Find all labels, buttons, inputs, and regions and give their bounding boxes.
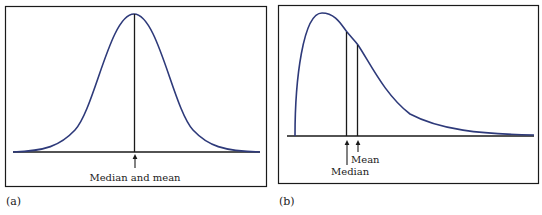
distribution-figure: Median and mean (a) Mean Median (b) [0,0,542,215]
panel-b-mean-arrow-icon [356,140,361,152]
panel-a-median-mean-label: Median and mean [89,172,181,183]
panel-a-caption: (a) [6,195,21,208]
panel-b-median-label: Median [331,166,370,177]
panel-b-frame [279,6,539,184]
panel-b-caption: (b) [279,195,295,208]
panel-b: Mean Median (b) [279,6,539,209]
panel-a: Median and mean (a) [6,7,267,209]
panel-b-mean-label: Mean [351,154,380,165]
panel-a-frame [6,7,267,187]
panel-a-bell-curve [13,14,260,152]
panel-a-arrow-icon [133,154,138,168]
panel-b-skewed-curve [295,13,534,136]
panel-b-median-arrow-icon [345,140,350,165]
